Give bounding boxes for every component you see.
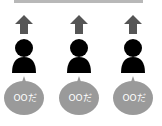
arrow-up-icon bbox=[15, 15, 33, 34]
arrow-up-icon bbox=[124, 15, 142, 34]
bubble-text: OOだ bbox=[0, 92, 50, 104]
arrow-up-icon bbox=[70, 15, 88, 34]
person-column-2: OOだ bbox=[55, 0, 105, 126]
person-icon bbox=[67, 39, 91, 73]
person-column-3: OOだ bbox=[109, 0, 159, 126]
bubble-text: OOだ bbox=[109, 92, 159, 104]
bubble-text: OOだ bbox=[55, 92, 105, 104]
person-icon bbox=[12, 39, 36, 73]
person-column-1: OOだ bbox=[0, 0, 50, 126]
person-icon bbox=[121, 39, 145, 73]
